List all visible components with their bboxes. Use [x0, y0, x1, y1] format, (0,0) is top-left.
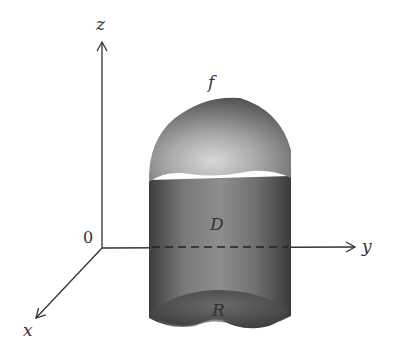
region-label: R — [211, 300, 225, 320]
z-axis-label: z — [95, 14, 106, 34]
origin-label: 0 — [83, 228, 93, 247]
surface-f — [149, 98, 291, 182]
y-axis-label: y — [361, 236, 372, 256]
solid-label: D — [209, 214, 224, 234]
surface-label: f — [206, 72, 217, 92]
x-axis-label: x — [23, 320, 33, 340]
diagram-canvas: z y x 0 f D R — [0, 0, 394, 354]
solid-d — [149, 98, 291, 329]
x-axis — [36, 248, 102, 318]
